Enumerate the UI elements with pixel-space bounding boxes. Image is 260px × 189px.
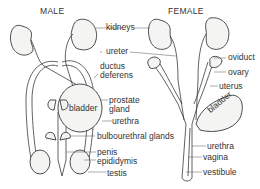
female-left-ureter xyxy=(170,36,184,120)
male-right-testis xyxy=(70,150,90,174)
label-ductus-2: deferens xyxy=(100,71,133,80)
label-male-urethra: urethra xyxy=(112,117,139,126)
label-male-bladder: bladder xyxy=(69,104,97,113)
label-female-urethra: urethra xyxy=(207,142,234,151)
label-ureter: ureter xyxy=(106,47,128,56)
label-bulbourethral: bulbourethral glands xyxy=(97,132,174,141)
female-vagina xyxy=(182,124,192,181)
leader-ductus xyxy=(94,74,98,78)
male-bulbourethral-left xyxy=(46,132,56,140)
male-left-kidney xyxy=(10,25,33,55)
label-ovary: ovary xyxy=(228,68,249,77)
label-vestibule: vestibule xyxy=(203,168,237,177)
label-prostate-2: gland xyxy=(109,105,130,114)
label-testis: testis xyxy=(107,169,127,178)
title-male: MALE xyxy=(40,6,64,16)
female-left-ovary xyxy=(148,57,161,68)
title-female: FEMALE xyxy=(168,6,204,16)
female-urethra xyxy=(188,128,190,176)
female-right-kidney xyxy=(206,18,229,50)
label-vagina: vagina xyxy=(203,153,228,162)
male-bulbourethral-right xyxy=(60,132,70,140)
male-left-testis xyxy=(30,150,50,174)
male-right-kidney xyxy=(71,19,96,50)
label-uterus: uterus xyxy=(219,82,243,91)
male-prostate-left xyxy=(48,100,56,110)
label-oviduct: oviduct xyxy=(228,53,255,62)
female-left-oviduct xyxy=(154,66,186,124)
label-epididymis: epididymis xyxy=(97,157,137,166)
female-left-kidney xyxy=(148,19,171,49)
leader-ureter-female xyxy=(130,52,176,56)
label-kidneys: kidneys xyxy=(106,23,135,32)
